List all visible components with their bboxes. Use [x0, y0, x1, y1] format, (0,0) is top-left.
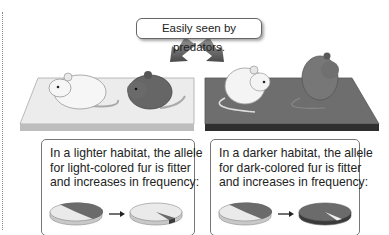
panel-caption: In a lighter habitat, the allele for lig… [50, 146, 202, 190]
arrow-right-icon [109, 211, 125, 217]
panel-caption: In a darker habitat, the allele for dark… [219, 146, 373, 190]
arrow-right-icon [278, 211, 294, 217]
predator-callout: Easily seen by predators. [136, 18, 262, 39]
pie-after [130, 203, 182, 225]
pie-before [219, 203, 272, 225]
darker-habitat-panel: In a darker habitat, the allele for dark… [210, 139, 360, 235]
caption-line: for dark-colored fur is fitter [219, 161, 373, 176]
lighter-habitat-panel: In a lighter habitat, the allele for lig… [41, 139, 195, 235]
caption-line: for light-colored fur is fitter [50, 161, 202, 176]
caption-line: In a darker habitat, the allele [219, 146, 373, 161]
allele-frequency-pies [48, 198, 188, 230]
pie-before [50, 203, 103, 225]
caption-line: In a lighter habitat, the allele [50, 146, 202, 161]
allele-frequency-pies [217, 198, 357, 230]
caption-line: and increases in frequency: [50, 175, 202, 190]
pie-after [299, 203, 351, 225]
caption-line: and increases in frequency: [219, 175, 373, 190]
